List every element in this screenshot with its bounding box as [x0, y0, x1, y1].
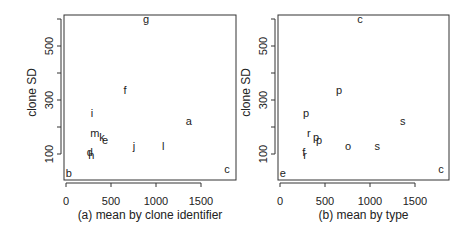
- data-point-label: b: [66, 167, 72, 179]
- x-tick-label: 1000: [144, 195, 168, 207]
- y-axis-title: clone SD: [239, 68, 253, 117]
- data-point-label: p: [336, 84, 342, 96]
- y-tick-label: 300: [43, 91, 55, 109]
- data-point-label: h: [88, 149, 94, 161]
- x-tick-label: 0: [277, 195, 283, 207]
- data-point-label: p: [303, 107, 309, 119]
- x-tick-label: 500: [316, 195, 334, 207]
- chart-canvas: 050010001500100300500(a) mean by clone i…: [0, 0, 471, 236]
- x-tick-label: 1500: [403, 195, 427, 207]
- data-point-label: r: [307, 127, 311, 139]
- x-tick-label: 0: [63, 195, 69, 207]
- x-tick-label: 1000: [358, 195, 382, 207]
- y-tick-label: 500: [43, 37, 55, 55]
- y-tick-label: 100: [257, 145, 269, 163]
- data-point-label: e: [102, 134, 108, 146]
- x-axis-title: (b) mean by type: [318, 208, 408, 222]
- data-point-label: c: [357, 13, 363, 25]
- scatter-panel-a: 050010001500100300500(a) mean by clone i…: [25, 13, 236, 222]
- data-point-label: c: [438, 163, 444, 175]
- data-point-label: s: [400, 115, 406, 127]
- data-point-label: i: [91, 107, 93, 119]
- y-axis-title: clone SD: [25, 68, 39, 117]
- data-point-label: s: [374, 140, 380, 152]
- y-tick-label: 100: [43, 145, 55, 163]
- data-point-label: e: [280, 167, 286, 179]
- data-point-label: a: [186, 115, 193, 127]
- data-point-label: f: [123, 84, 127, 96]
- scatter-panel-b: 050010001500100300500(b) mean by typeclo…: [239, 13, 449, 222]
- y-tick-label: 500: [257, 37, 269, 55]
- data-point-label: j: [132, 140, 135, 152]
- data-point-label: l: [162, 140, 164, 152]
- data-point-label: o: [345, 140, 351, 152]
- data-point-label: r: [303, 149, 307, 161]
- x-tick-label: 500: [102, 195, 120, 207]
- data-point-label: c: [224, 163, 230, 175]
- x-axis-title: (a) mean by clone identifier: [78, 208, 223, 222]
- data-point-label: g: [143, 13, 149, 25]
- x-tick-label: 1500: [189, 195, 213, 207]
- y-tick-label: 300: [257, 91, 269, 109]
- data-point-label: p: [316, 134, 322, 146]
- data-point-label: m: [90, 127, 99, 139]
